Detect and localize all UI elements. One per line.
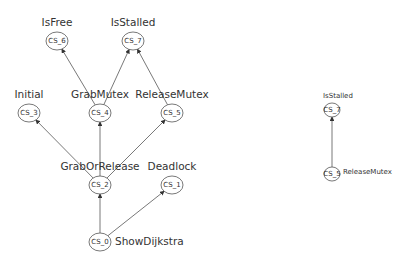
left-node-cs-1: CS_1 xyxy=(161,176,183,194)
left-graph-nodes: CS_6CS_7CS_3CS_4CS_5CS_2CS_1CS_0 xyxy=(18,32,183,251)
node-id: CS_7 xyxy=(323,106,340,114)
left-node-cs-6: CS_6 xyxy=(46,32,68,50)
node-label: ShowDijkstra xyxy=(115,235,184,247)
node-id: CS_3 xyxy=(20,109,37,117)
node-id: CS_5 xyxy=(323,170,340,178)
left-graph-edges xyxy=(36,49,168,236)
node-label: IsFree xyxy=(42,16,73,28)
left-node-cs-5: CS_5 xyxy=(161,104,183,122)
node-label: IsStalled xyxy=(323,92,353,100)
node-label: ReleaseMutex xyxy=(343,168,392,176)
right-node-cs-7: CS_7 xyxy=(323,103,340,117)
node-id: CS_7 xyxy=(124,37,141,45)
left-node-cs-2: CS_2 xyxy=(89,176,111,194)
node-id: CS_6 xyxy=(48,37,66,45)
node-label: IsStalled xyxy=(111,16,156,28)
node-label: Deadlock xyxy=(148,160,197,172)
node-id: CS_5 xyxy=(163,109,180,117)
left-edge-cs_0-to-cs_1 xyxy=(108,191,164,235)
left-node-cs-0: CS_0 xyxy=(89,233,111,251)
left-node-cs-7: CS_7 xyxy=(122,32,144,50)
node-id: CS_4 xyxy=(91,109,109,117)
node-label: Initial xyxy=(14,88,43,100)
node-id: CS_1 xyxy=(163,181,180,189)
left-node-cs-4: CS_4 xyxy=(89,104,111,122)
diagram-canvas: CS_6CS_7CS_3CS_4CS_5CS_2CS_1CS_0 CS_7CS_… xyxy=(0,0,402,267)
node-label: GrabMutex xyxy=(71,88,129,100)
node-label: ReleaseMutex xyxy=(135,88,208,100)
node-id: CS_0 xyxy=(91,238,108,246)
left-node-cs-3: CS_3 xyxy=(18,104,40,122)
node-id: CS_2 xyxy=(91,181,108,189)
node-label: GrabOrRelease xyxy=(60,160,139,172)
right-node-cs-5: CS_5 xyxy=(323,167,340,181)
